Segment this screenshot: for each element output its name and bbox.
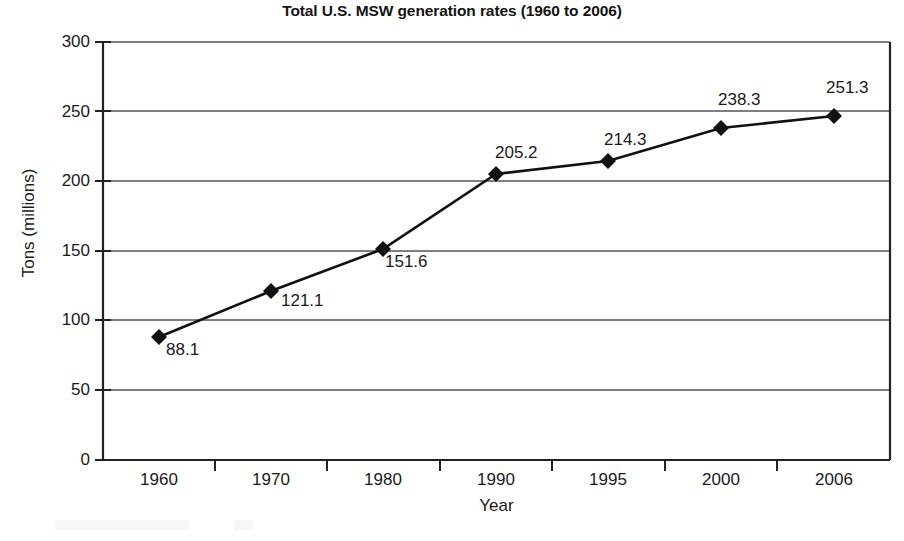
- scan-artifact: [55, 520, 375, 530]
- x-tick-label-1960: 1960: [99, 470, 219, 490]
- gridlines: [103, 42, 890, 390]
- data-label-1980: 151.6: [385, 252, 428, 272]
- data-label-1970: 121.1: [281, 291, 324, 311]
- plot-area: [0, 0, 904, 541]
- data-label-1995: 214.3: [604, 130, 647, 150]
- x-tick-label-1970: 1970: [211, 470, 331, 490]
- x-tick-label-1980: 1980: [323, 470, 443, 490]
- data-point-2000: [713, 120, 729, 136]
- x-axis-title: Year: [103, 496, 890, 516]
- data-point-1970: [263, 283, 279, 299]
- chart-figure: Total U.S. MSW generation rates (1960 to…: [0, 0, 904, 541]
- data-point-1990: [488, 166, 504, 182]
- data-point-1960: [151, 329, 167, 345]
- data-label-1960: 88.1: [166, 340, 199, 360]
- data-label-2000: 238.3: [718, 90, 761, 110]
- x-tick-label-1990: 1990: [436, 470, 556, 490]
- x-tick-label-2000: 2000: [661, 470, 781, 490]
- x-tick-label-2006: 2006: [774, 470, 894, 490]
- data-point-1995: [600, 153, 616, 169]
- data-label-2006: 251.3: [826, 78, 869, 98]
- data-label-1990: 205.2: [495, 143, 538, 163]
- x-tick-label-1995: 1995: [548, 470, 668, 490]
